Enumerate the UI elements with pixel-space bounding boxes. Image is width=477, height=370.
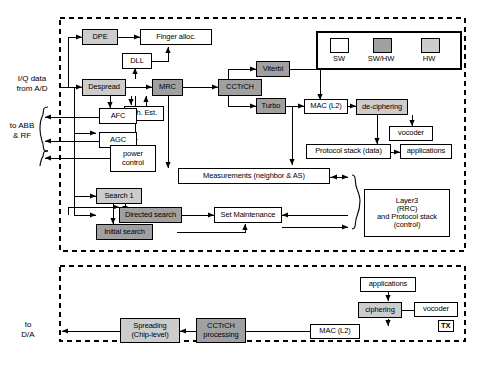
edge-label-abb-line1: to ABB: [0, 121, 48, 131]
block-deciphering[interactable]: de-ciphering: [356, 99, 408, 115]
block-mac-l2-rx[interactable]: MAC (L2): [304, 99, 348, 114]
block-vocoder-rx[interactable]: vocoder: [389, 126, 433, 141]
layer3-line4: (control): [394, 221, 421, 229]
edge-label-iq-line1: I/Q data: [6, 74, 58, 84]
edge-label-da-line1: to: [8, 320, 48, 330]
edge-label-iq-line2: from A/D: [6, 84, 58, 94]
edge-label-abb-line2: & RF: [0, 131, 48, 141]
block-measurements[interactable]: Measurements (neighbor & AS): [178, 168, 330, 184]
legend-label-sw: SW: [322, 54, 356, 63]
edge-label-abb-rf: to ABB & RF: [0, 121, 48, 140]
block-finger-alloc[interactable]: Finger alloc.: [140, 29, 212, 45]
block-turbo[interactable]: Turbo: [256, 98, 286, 114]
diagram-canvas: RX TX SW SW/HW HW I/Q data from A/D to A…: [0, 0, 477, 370]
edge-label-da-line2: D/A: [8, 330, 48, 340]
block-initial-search[interactable]: Initial search: [96, 224, 153, 240]
power-control-line2: control: [122, 159, 144, 167]
block-layer3-protocol-stack[interactable]: Layer3 (RRC) and Protocol stack (control…: [364, 189, 450, 237]
block-vocoder-tx[interactable]: vocoder: [414, 302, 458, 317]
block-set-maintenance[interactable]: Set Maintenance: [214, 207, 282, 223]
block-search-1[interactable]: Search 1: [96, 188, 142, 204]
block-power-control[interactable]: power control: [110, 145, 156, 172]
block-cctrch-rx[interactable]: CCTrCH: [218, 79, 262, 96]
section-tag-tx: TX: [438, 320, 454, 332]
block-applications-tx[interactable]: applications: [360, 277, 416, 292]
spreading-line2: (Chip-level): [131, 331, 168, 339]
legend-label-swhw: SW/HW: [364, 54, 398, 63]
block-ciphering[interactable]: ciphering: [358, 302, 402, 318]
legend-swatch-swhw: [373, 38, 392, 53]
block-afc[interactable]: AFC: [99, 108, 137, 124]
block-viterbi[interactable]: Viterbi: [256, 61, 290, 77]
edge-label-iq-input: I/Q data from A/D: [6, 74, 58, 93]
block-despread[interactable]: Despread: [82, 79, 126, 96]
cctrch-tx-line2: processing: [203, 331, 238, 339]
block-cctrch-processing-tx[interactable]: CCTrCH processing: [196, 318, 246, 343]
legend: SW SW/HW HW: [316, 31, 462, 70]
block-directed-search[interactable]: Directed search: [119, 207, 182, 223]
legend-label-hw: HW: [412, 54, 446, 63]
block-mrc[interactable]: MRC: [152, 79, 183, 96]
legend-swatch-hw: [421, 38, 440, 53]
block-protocol-stack-data[interactable]: Protocol stack (data): [306, 144, 391, 159]
block-applications-rx[interactable]: applications: [400, 144, 452, 159]
legend-swatch-sw: [330, 38, 349, 53]
block-mac-l2-tx[interactable]: MAC (L2): [310, 324, 360, 339]
edge-label-da-output: to D/A: [8, 320, 48, 339]
block-dll[interactable]: DLL: [122, 53, 152, 69]
block-dpe[interactable]: DPE: [82, 29, 118, 45]
block-spreading-chip-level[interactable]: Spreading (Chip-level): [120, 318, 180, 343]
